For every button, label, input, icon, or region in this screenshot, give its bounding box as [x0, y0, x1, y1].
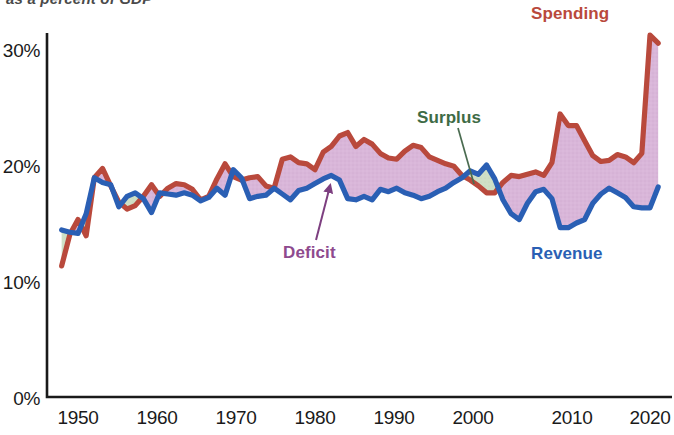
area-fills — [62, 35, 659, 266]
chart-container: as a percent of GDP 30% 20% 10% 0% 1950 … — [0, 0, 674, 435]
chart-plot-area — [0, 0, 674, 435]
deficit-leader-line — [316, 186, 330, 240]
